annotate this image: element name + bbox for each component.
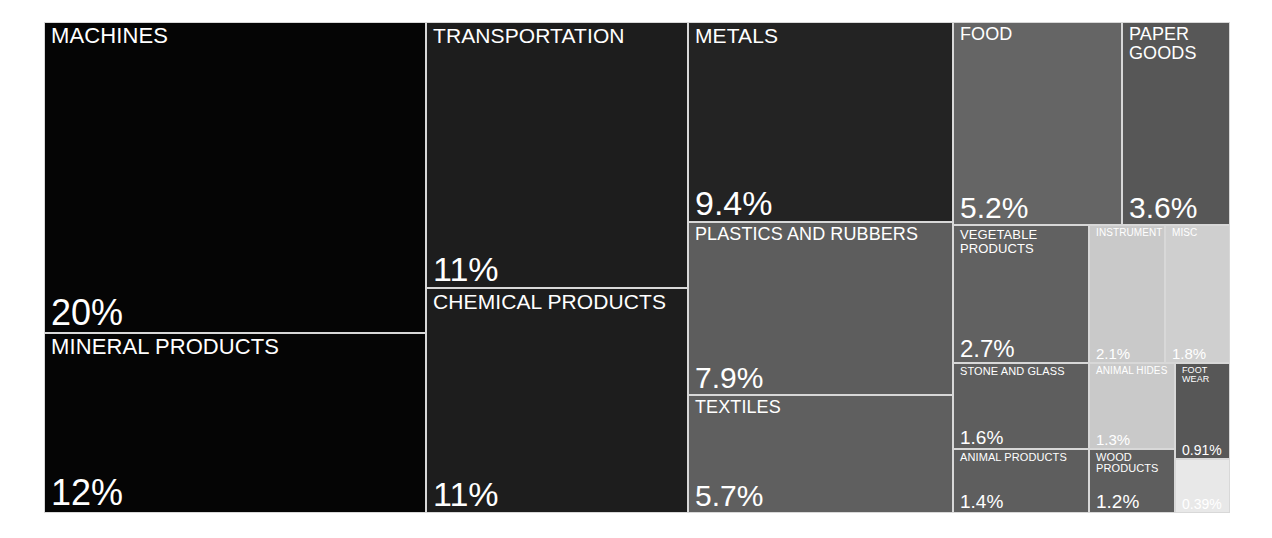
tile-label: CHEMICAL PRODUCTS bbox=[433, 291, 684, 313]
treemap-tile[interactable]: PLASTICS AND RUBBERS7.9% bbox=[688, 222, 953, 395]
tile-value: 1.8% bbox=[1172, 346, 1206, 361]
tile-value: 9.4% bbox=[695, 186, 773, 220]
tile-label: INSTRUMENT bbox=[1096, 228, 1161, 238]
tile-label: MISC bbox=[1172, 228, 1226, 238]
tile-label: MINERAL PRODUCTS bbox=[51, 336, 422, 359]
tile-value: 2.7% bbox=[960, 337, 1015, 361]
tile-value: 11% bbox=[433, 477, 499, 511]
treemap-tile[interactable]: FOOT WEAR0.91% bbox=[1175, 363, 1230, 459]
tile-value: 3.6% bbox=[1129, 193, 1197, 223]
tile-label: WOOD PRODUCTS bbox=[1096, 452, 1171, 475]
tile-label: ANIMAL PRODUCTS bbox=[960, 452, 1085, 463]
tile-label: TRANSPORTATION bbox=[433, 25, 684, 47]
tile-value: 1.2% bbox=[1096, 492, 1139, 511]
tile-value: 7.9% bbox=[695, 363, 763, 393]
tile-value: 1.3% bbox=[1096, 432, 1130, 447]
tile-value: 5.7% bbox=[695, 481, 763, 511]
treemap-tile[interactable]: METALS9.4% bbox=[688, 22, 953, 222]
treemap-tile[interactable]: MINERAL PRODUCTS12% bbox=[44, 333, 426, 513]
treemap-tile[interactable]: MACHINES20% bbox=[44, 22, 426, 333]
tile-label: FOOD bbox=[960, 25, 1118, 44]
treemap-tile[interactable]: MISC1.8% bbox=[1165, 225, 1230, 363]
tile-value: 1.4% bbox=[960, 492, 1003, 511]
tile-label: STONE AND GLASS bbox=[960, 366, 1085, 377]
tile-label: FOOT WEAR bbox=[1182, 366, 1226, 385]
tile-value: 20% bbox=[51, 295, 123, 331]
tile-value: 5.2% bbox=[960, 193, 1028, 223]
treemap-tile[interactable]: VEGETABLE PRODUCTS2.7% bbox=[953, 225, 1089, 363]
treemap-chart: MACHINES20%MINERAL PRODUCTS12%TRANSPORTA… bbox=[44, 22, 1230, 513]
tile-value: 1.6% bbox=[960, 428, 1003, 447]
tile-label: METALS bbox=[695, 25, 949, 47]
tile-label: MACHINES bbox=[51, 25, 422, 48]
treemap-tile[interactable]: ANIMAL HIDES1.3% bbox=[1089, 363, 1175, 449]
treemap-tile[interactable]: ANIMAL PRODUCTS1.4% bbox=[953, 449, 1089, 513]
tile-value: 2.1% bbox=[1096, 346, 1130, 361]
tile-value: 0.39% bbox=[1182, 497, 1222, 511]
tile-label: PLASTICS AND RUBBERS bbox=[695, 225, 949, 244]
tile-value: 11% bbox=[433, 252, 499, 286]
treemap-tile[interactable]: INSTRUMENT2.1% bbox=[1089, 225, 1165, 363]
treemap-tile[interactable]: STONE AND GLASS1.6% bbox=[953, 363, 1089, 449]
tile-label: ANIMAL HIDES bbox=[1096, 366, 1171, 376]
tile-label: VEGETABLE PRODUCTS bbox=[960, 228, 1085, 255]
treemap-tile[interactable]: FOOD5.2% bbox=[953, 22, 1122, 225]
treemap-tile[interactable]: TRANSPORTATION11% bbox=[426, 22, 688, 288]
tile-label: TEXTILES bbox=[695, 398, 949, 417]
treemap-tile[interactable]: 0.39% bbox=[1175, 459, 1230, 513]
treemap-tile[interactable]: PAPER GOODS3.6% bbox=[1122, 22, 1230, 225]
tile-label: PAPER GOODS bbox=[1129, 25, 1226, 62]
treemap-tile[interactable]: WOOD PRODUCTS1.2% bbox=[1089, 449, 1175, 513]
tile-value: 0.91% bbox=[1182, 443, 1222, 457]
treemap-tile[interactable]: CHEMICAL PRODUCTS11% bbox=[426, 288, 688, 513]
tile-value: 12% bbox=[51, 475, 123, 511]
treemap-tile[interactable]: TEXTILES5.7% bbox=[688, 395, 953, 513]
